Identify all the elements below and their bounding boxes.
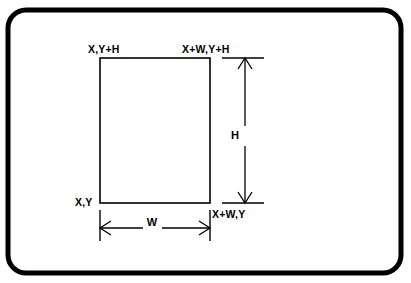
diagram-canvas: X,Y X,Y+H X+W,Y+H X+W,Y W H: [0, 0, 411, 283]
corner-label-top-right: X+W,Y+H: [182, 43, 230, 55]
width-dimension-label: W: [147, 216, 158, 228]
height-dimension-label: H: [231, 129, 239, 141]
corner-label-top-left: X,Y+H: [88, 43, 120, 55]
rectangle-dimension-diagram: X,Y X,Y+H X+W,Y+H X+W,Y W H: [0, 0, 411, 283]
corner-label-bottom-right: X+W,Y: [212, 208, 245, 220]
corner-label-bottom-left: X,Y: [75, 196, 93, 208]
